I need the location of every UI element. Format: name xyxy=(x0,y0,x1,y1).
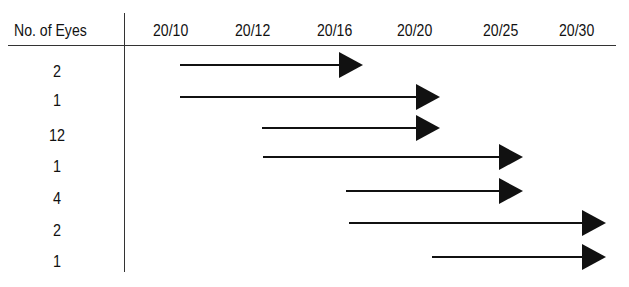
arrow-row-5 xyxy=(346,178,523,204)
arrow-row-7 xyxy=(432,244,606,270)
arrow-row-6 xyxy=(349,210,606,236)
arrow-row-1 xyxy=(180,52,363,78)
arrow-row-4 xyxy=(263,144,523,170)
arrow-row-3 xyxy=(262,115,440,141)
arrows-layer xyxy=(0,0,629,287)
arrow-row-2 xyxy=(180,84,440,110)
